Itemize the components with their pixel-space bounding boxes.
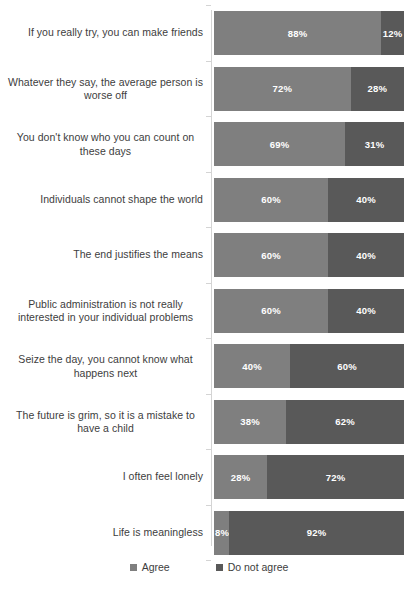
axis-tick [206,394,211,395]
bar-segment-do-not-agree[interactable]: 40% [328,233,404,277]
stacked-bar[interactable]: 69%31% [214,122,404,166]
stacked-bar[interactable]: 60%40% [214,178,404,222]
bar-segment-do-not-agree[interactable]: 92% [229,511,404,555]
chart-row: The end justifies the means60%40% [0,233,418,277]
chart-row: I often feel lonely28%72% [0,455,418,499]
legend-swatch-icon [216,564,223,571]
bar-segment-do-not-agree[interactable]: 62% [286,400,404,444]
chart-row: Public administration is not really inte… [0,289,418,333]
bar-segment-agree[interactable]: 60% [214,289,328,333]
stacked-bar[interactable]: 40%60% [214,344,404,388]
bar-segment-do-not-agree[interactable]: 40% [328,178,404,222]
stacked-bar[interactable]: 88%12% [214,11,404,55]
axis-tick [206,172,211,173]
stacked-bar[interactable]: 60%40% [214,289,404,333]
bar-segment-do-not-agree[interactable]: 40% [328,289,404,333]
bar-segment-agree[interactable]: 72% [214,67,351,111]
axis-tick [206,505,211,506]
axis-tick [206,338,211,339]
bar-segment-agree[interactable]: 28% [214,455,267,499]
category-label: Life is meaningless [8,526,203,540]
bar-segment-do-not-agree[interactable]: 31% [345,122,404,166]
category-label: I often feel lonely [8,470,203,484]
legend-label: Agree [142,561,170,573]
legend-swatch-icon [130,564,137,571]
bar-segment-agree[interactable]: 69% [214,122,345,166]
legend-item[interactable]: Agree [130,561,170,573]
category-label: Public administration is not really inte… [8,297,203,324]
chart-row: If you really try, you can make friends8… [0,11,418,55]
stacked-bar-chart: If you really try, you can make friends8… [0,0,418,593]
chart-row: Life is meaningless8%92% [0,511,418,555]
axis-tick [206,283,211,284]
stacked-bar[interactable]: 8%92% [214,511,404,555]
chart-row: Whatever they say, the average person is… [0,67,418,111]
bar-segment-do-not-agree[interactable]: 60% [290,344,404,388]
chart-legend: AgreeDo not agree [0,561,418,573]
bar-segment-agree[interactable]: 60% [214,178,328,222]
bar-segment-agree[interactable]: 88% [214,11,381,55]
bar-segment-do-not-agree[interactable]: 12% [381,11,404,55]
chart-row: You don't know who you can count on thes… [0,122,418,166]
category-label: You don't know who you can count on thes… [8,131,203,158]
bar-segment-do-not-agree[interactable]: 72% [267,455,404,499]
axis-tick [206,5,211,6]
bar-segment-do-not-agree[interactable]: 28% [351,67,404,111]
bar-segment-agree[interactable]: 40% [214,344,290,388]
category-label: Seize the day, you cannot know what happ… [8,353,203,380]
stacked-bar[interactable]: 38%62% [214,400,404,444]
chart-row: Individuals cannot shape the world60%40% [0,178,418,222]
stacked-bar[interactable]: 28%72% [214,455,404,499]
chart-row: Seize the day, you cannot know what happ… [0,344,418,388]
chart-row: The future is grim, so it is a mistake t… [0,400,418,444]
axis-tick [206,61,211,62]
axis-tick [206,116,211,117]
bar-segment-agree[interactable]: 8% [214,511,229,555]
category-label: Individuals cannot shape the world [8,193,203,207]
stacked-bar[interactable]: 72%28% [214,67,404,111]
category-label: The future is grim, so it is a mistake t… [8,408,203,435]
stacked-bar[interactable]: 60%40% [214,233,404,277]
bar-segment-agree[interactable]: 38% [214,400,286,444]
category-label: The end justifies the means [8,248,203,262]
legend-label: Do not agree [228,561,289,573]
legend-item[interactable]: Do not agree [216,561,289,573]
category-label: Whatever they say, the average person is… [8,75,203,102]
axis-tick [206,227,211,228]
axis-tick [206,449,211,450]
category-label: If you really try, you can make friends [8,26,203,40]
bar-segment-agree[interactable]: 60% [214,233,328,277]
